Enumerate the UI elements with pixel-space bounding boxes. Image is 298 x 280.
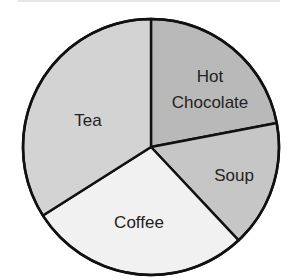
- slice-label-line: Coffee: [114, 213, 164, 232]
- slice-label-soup: Soup: [214, 166, 254, 185]
- slice-label-tea: Tea: [74, 111, 102, 130]
- pie-chart: HotChocolateSoupCoffeeTea: [0, 0, 298, 280]
- slice-label-line: Chocolate: [172, 93, 249, 112]
- slice-label-line: Soup: [214, 166, 254, 185]
- slice-label-line: Hot: [197, 67, 224, 86]
- slice-label-line: Tea: [74, 111, 102, 130]
- slice-label-coffee: Coffee: [114, 213, 164, 232]
